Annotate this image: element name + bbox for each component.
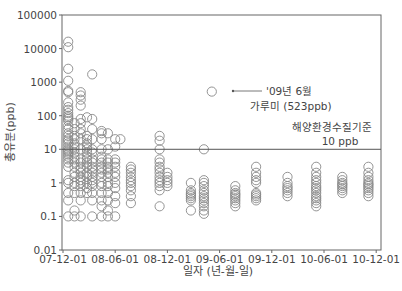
x-tick-label: 10-06-01 [300,253,348,265]
data-point [76,101,85,110]
data-point [76,212,85,221]
scatter-plot: 0.010.1110100100010000100000 07-12-0108-… [0,0,402,291]
x-tick-label: 10-12-01 [352,253,400,265]
data-point [97,202,106,211]
data-point [88,212,97,221]
data-point [64,37,73,46]
data-point [207,87,216,96]
data-point [88,125,97,134]
x-axis-label: 일자 (년-월-일) [183,264,253,278]
y-axis-ticks: 0.010.1110100100010000100000 [17,9,62,256]
y-tick-label: 100 [37,110,57,122]
x-axis-ticks: 07-12-0108-06-0108-12-0109-06-0109-12-01… [39,250,400,265]
data-point [88,70,97,79]
reference-label-line1: 해양환경수질기준 [292,121,372,133]
y-tick-label: 1 [50,177,57,189]
data-point [116,135,125,144]
data-point [111,178,120,187]
data-point [186,206,195,215]
x-tick-label: 09-06-01 [196,253,244,265]
annotation-arrow-icon [232,90,234,92]
data-point [111,212,120,221]
data-point [64,64,73,73]
y-tick-label: 10 [44,143,57,155]
y-tick-label: 0.1 [40,210,57,222]
y-axis-label: 총유분(ppb) [4,102,17,162]
data-point [64,43,73,52]
y-tick-label: 10000 [24,43,57,55]
x-tick-label: 08-06-01 [91,253,139,265]
reference-label-line2: 10 ppb [322,135,359,147]
y-tick-label: 100000 [17,9,57,21]
data-point [111,168,120,177]
annotation-line2: 가루미 (523ppb) [250,100,332,112]
data-point [126,199,135,208]
x-tick-label: 09-12-01 [248,253,296,265]
x-tick-label: 07-12-01 [39,253,87,265]
data-point [64,76,73,85]
data-point [82,113,91,122]
data-point [88,114,97,123]
data-point [103,212,112,221]
annotation-garumi: '09년 6월 가루미 (523ppb) [232,85,332,112]
oil-concentration-chart: 0.010.1110100100010000100000 07-12-0108-… [0,0,402,291]
annotation-line1: '09년 6월 [266,85,312,97]
y-tick-label: 1000 [30,76,57,88]
x-tick-label: 08-12-01 [144,253,192,265]
data-point [155,202,164,211]
